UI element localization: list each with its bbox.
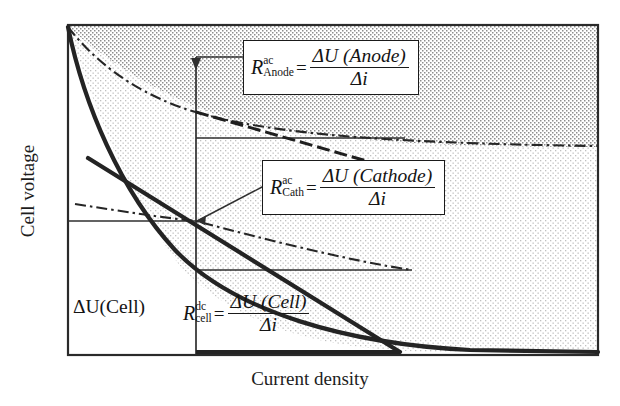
anode-formula-subscript: Anode [263,67,294,79]
anode-formula-fraction: ΔU (Anode) Δi [310,46,409,89]
anode-formula-equals: = [296,58,307,77]
cathode-formula-symbol: R [270,177,282,197]
cell-delta-u-label: ΔU(Cell) [73,297,145,317]
anode-resistance-formula-box: R ac Anode = ΔU (Anode) Δi [243,40,419,95]
cathode-formula-fraction: ΔU (Cathode) Δi [320,166,435,209]
cell-formula-fraction: ΔU (Cell) Δi [228,292,310,335]
anode-formula-denominator: Δi [348,68,371,89]
cell-formula-denominator: Δi [257,314,280,335]
cell-formula-supsub: dc cell [195,301,212,325]
cell-formula-equals: = [214,304,225,323]
anode-formula-supsub: ac Anode [263,55,294,79]
cathode-resistance-formula-box: R ac Cath = ΔU (Cathode) Δi [262,160,445,215]
cell-formula-symbol: R [183,303,195,323]
x-axis-label: Current density [0,368,620,390]
cathode-formula-numerator: ΔU (Cathode) [320,166,435,187]
y-axis-label: Cell voltage [17,111,39,271]
cell-formula-numerator: ΔU (Cell) [228,292,310,313]
cathode-formula-supsub: ac Cath [282,175,304,199]
anode-formula-symbol: R [251,57,263,77]
cathode-formula-denominator: Δi [366,188,389,209]
cathode-formula-equals: = [306,178,317,197]
anode-formula-numerator: ΔU (Anode) [310,46,409,67]
cell-resistance-formula: R dc cell = ΔU (Cell) Δi [183,292,309,335]
cell-formula-subscript: cell [195,313,212,325]
cathode-formula-subscript: Cath [282,187,304,199]
